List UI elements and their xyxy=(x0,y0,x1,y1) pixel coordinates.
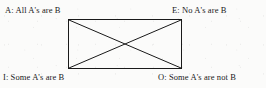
square-of-opposition-figure: A: All A's are B E: No A's are B I: Some… xyxy=(0,0,266,88)
corner-label-e: E: No A's are B xyxy=(172,5,227,15)
corner-label-i: I: Some A's are B xyxy=(3,72,64,82)
corner-label-o: O: Some A's are not B xyxy=(158,72,236,82)
corner-label-a: A: All A's are B xyxy=(5,5,61,15)
